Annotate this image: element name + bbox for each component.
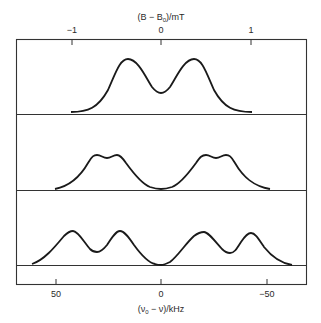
plot-frame bbox=[17, 40, 307, 285]
nmr-figure: (B − B0)/mT −1 0 1 50 0 − bbox=[0, 0, 321, 323]
panel-2-spectrum bbox=[55, 155, 270, 189]
top-axis-label: (B − B0)/mT bbox=[137, 12, 185, 23]
bottom-tick-label-neg50: −50 bbox=[259, 289, 274, 299]
bottom-tick-label-0: 0 bbox=[158, 289, 163, 299]
top-ticks bbox=[72, 40, 251, 46]
panel-3-spectrum bbox=[32, 231, 292, 265]
panel-1-spectrum bbox=[71, 59, 252, 112]
bottom-ticks bbox=[56, 279, 267, 285]
top-tick-label-neg1: −1 bbox=[67, 25, 77, 35]
top-tick-label-0: 0 bbox=[158, 25, 163, 35]
bottom-tick-label-50: 50 bbox=[51, 289, 61, 299]
bottom-axis-label: (ν0 − ν)/kHz bbox=[138, 304, 185, 315]
top-tick-label-1: 1 bbox=[248, 25, 253, 35]
